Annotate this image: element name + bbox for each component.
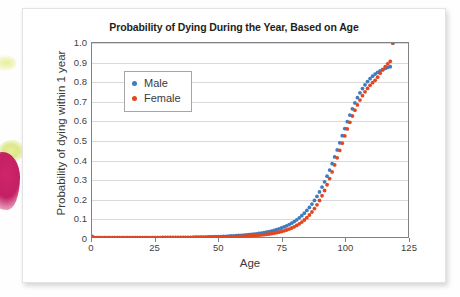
y-tick-label: 0.7 <box>61 95 87 106</box>
legend-label-female: Female <box>144 93 181 104</box>
x-tick-label: 75 <box>277 242 288 253</box>
y-tick-label: 1.0 <box>61 37 87 48</box>
chart-title: Probability of Dying During the Year, Ba… <box>23 21 445 33</box>
x-axis-tick-labels: 0255075100125 <box>91 242 409 256</box>
y-axis-tick-labels: 00.10.20.30.40.50.60.70.80.91.0 <box>59 42 87 238</box>
legend-swatch-female-icon <box>132 96 137 101</box>
legend-label-male: Male <box>144 78 168 89</box>
y-tick-label: 0.8 <box>61 76 87 87</box>
decorative-leaf-shape-upper <box>0 56 16 70</box>
y-tick-label: 0.4 <box>61 154 87 165</box>
x-tick-label: 100 <box>337 242 353 253</box>
legend-item-female: Female <box>132 91 181 106</box>
legend-item-male: Male <box>132 76 181 91</box>
y-tick-label: 0.1 <box>61 213 87 224</box>
y-tick-label: 0.9 <box>61 56 87 67</box>
y-tick-label: 0.5 <box>61 135 87 146</box>
chart-figure-card: Probability of Dying During the Year, Ba… <box>22 8 446 283</box>
x-axis-title: Age <box>91 257 409 269</box>
decorative-leaf-shape-lower <box>0 140 24 162</box>
x-tick-label: 25 <box>149 242 160 253</box>
y-tick-label: 0.3 <box>61 174 87 185</box>
y-tick-label: 0 <box>61 233 87 244</box>
y-tick-label: 0.6 <box>61 115 87 126</box>
chart-legend: Male Female <box>124 71 192 112</box>
x-tick-label: 125 <box>401 242 417 253</box>
legend-swatch-male-icon <box>132 81 137 86</box>
x-tick-label: 50 <box>213 242 224 253</box>
decorative-magenta-shape <box>0 152 20 210</box>
y-tick-label: 0.2 <box>61 193 87 204</box>
x-tick-label: 0 <box>88 242 93 253</box>
